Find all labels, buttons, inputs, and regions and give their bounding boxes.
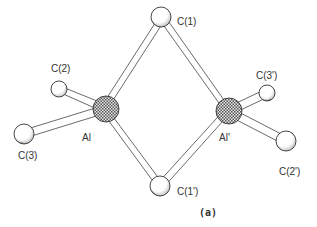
bond-alp-c1 <box>159 15 231 113</box>
label-c2: C(2) <box>51 63 70 74</box>
atom-c1p <box>150 176 170 196</box>
label-c1: C(1) <box>177 16 196 27</box>
label-c1p: C(1') <box>177 186 198 197</box>
bond-al-c1p <box>103 110 163 188</box>
bonds <box>24 15 287 188</box>
label-c2p: C(2') <box>279 166 300 177</box>
figure-caption: (a) <box>199 207 217 218</box>
label-al: Al <box>82 132 91 143</box>
label-c3: C(3) <box>18 150 37 161</box>
label-alp: Al' <box>219 132 230 143</box>
atom-alp <box>216 98 242 124</box>
molecular-diagram: C(1) C(2) C(3') Al Al' C(3) C(2') C(1') … <box>0 0 317 227</box>
atom-al <box>93 96 119 122</box>
bond-al-c1 <box>103 17 164 108</box>
label-c3p: C(3') <box>256 70 277 81</box>
atom-c3 <box>14 124 34 144</box>
